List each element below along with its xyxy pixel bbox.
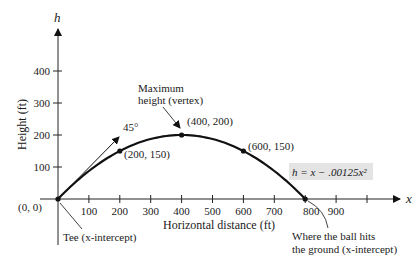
equation-label: h = x − .00125x² [292, 166, 367, 178]
y-tick-label: 400 [34, 65, 51, 77]
data-point [55, 196, 60, 201]
tee-note: Tee (x-intercept) [63, 231, 137, 244]
y-axis-symbol: h [54, 10, 61, 25]
ground-note-line1: Where the ball hits [292, 230, 375, 242]
x-tick-label: 300 [142, 205, 159, 217]
x-axis-label: Horizontal distance (ft) [163, 218, 275, 232]
vertex-pointer [163, 107, 180, 128]
angle-label: 45° [123, 121, 138, 133]
x-tick-label: 200 [112, 205, 129, 217]
x-tick-label: 800 [303, 205, 320, 217]
data-point [303, 196, 308, 201]
x-tick-label: 900 [328, 205, 345, 217]
data-point [179, 132, 184, 137]
vertex-note-line2: height (vertex) [138, 94, 203, 107]
y-tick-label: 300 [34, 97, 51, 109]
vertex-label: (400, 200) [187, 115, 233, 128]
origin-label: (0, 0) [18, 201, 42, 214]
y-tick-label: 100 [34, 161, 51, 173]
data-point [117, 148, 122, 153]
y-axis-label: Height (ft) [15, 99, 29, 150]
vertex-note-line1: Maximum [138, 82, 184, 94]
x-tick-label: 700 [266, 205, 283, 217]
data-point [241, 148, 246, 153]
x-ticks: 100200300400500600700800900 [81, 195, 367, 217]
x-tick-label: 100 [81, 205, 98, 217]
x-tick-label: 600 [235, 205, 252, 217]
y-tick-label: 200 [34, 129, 51, 141]
x-axis-symbol: x [405, 191, 412, 206]
tee-pointer [60, 203, 82, 229]
ground-note-line2: the ground (x-intercept) [292, 243, 397, 256]
projectile-chart: x h 100200300400500600700800900 10020030… [0, 0, 419, 265]
point-200-label: (200, 150) [124, 148, 170, 161]
x-tick-label: 500 [204, 205, 221, 217]
point-600-label: (600, 150) [248, 140, 294, 153]
x-tick-label: 400 [173, 205, 190, 217]
